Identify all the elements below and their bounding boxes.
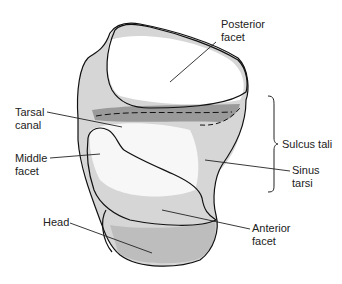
label-head: Head — [43, 216, 69, 229]
label-sinus-tarsi: Sinus tarsi — [292, 164, 320, 190]
label-anterior-facet: Anterior facet — [252, 222, 291, 248]
label-sulcus-tali: Sulcus tali — [282, 138, 332, 151]
talus-diagram: Posterior facet Tarsal canal Middle face… — [0, 0, 342, 284]
label-posterior-facet: Posterior facet — [221, 18, 265, 44]
sulcus-tali-brace — [268, 96, 278, 192]
cropped-caption — [0, 276, 342, 284]
label-middle-facet: Middle facet — [15, 152, 47, 178]
label-tarsal-canal: Tarsal canal — [15, 106, 44, 132]
bone-highlight — [107, 36, 243, 104]
